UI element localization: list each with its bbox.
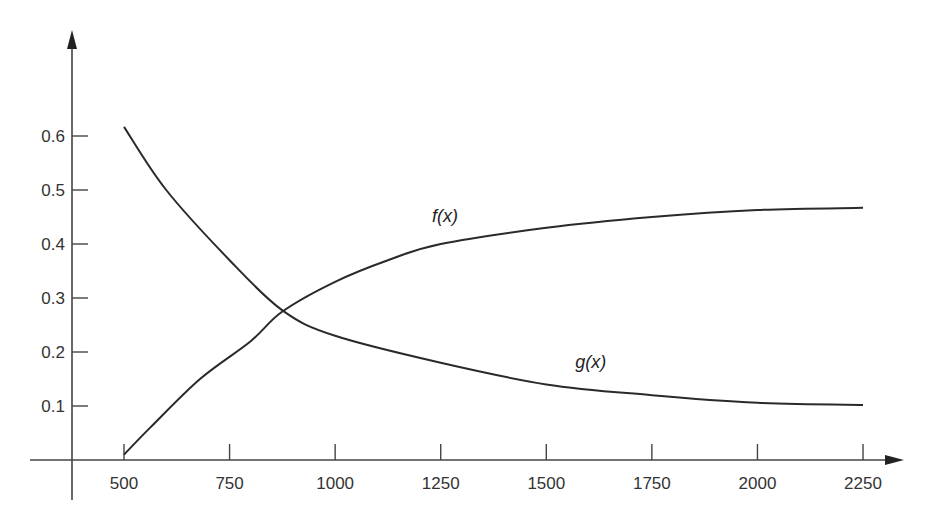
- series-line-g: [124, 127, 863, 405]
- axes: [30, 30, 904, 500]
- x-tick-label: 750: [215, 474, 243, 493]
- line-chart: 5007501000125015001750200022500.10.20.30…: [0, 0, 929, 521]
- series-line-f: [124, 208, 863, 455]
- y-tick-label: 0.1: [41, 397, 65, 416]
- y-tick-label: 0.3: [41, 289, 65, 308]
- y-tick-label: 0.2: [41, 343, 65, 362]
- y-tick-label: 0.4: [41, 235, 65, 254]
- x-tick-label: 1500: [527, 474, 565, 493]
- series-lines: [124, 127, 863, 455]
- y-axis-arrow-icon: [67, 30, 77, 49]
- axis-ticks: 5007501000125015001750200022500.10.20.30…: [41, 127, 882, 493]
- x-tick-label: 1750: [633, 474, 671, 493]
- x-tick-label: 2250: [844, 474, 882, 493]
- y-tick-label: 0.5: [41, 181, 65, 200]
- x-tick-label: 1250: [422, 474, 460, 493]
- x-tick-label: 500: [110, 474, 138, 493]
- y-tick-label: 0.6: [41, 127, 65, 146]
- x-tick-label: 2000: [739, 474, 777, 493]
- x-tick-label: 1000: [316, 474, 354, 493]
- series-label-g: g(x): [575, 352, 606, 372]
- series-label-f: f(x): [432, 206, 458, 226]
- x-axis-arrow-icon: [885, 455, 904, 465]
